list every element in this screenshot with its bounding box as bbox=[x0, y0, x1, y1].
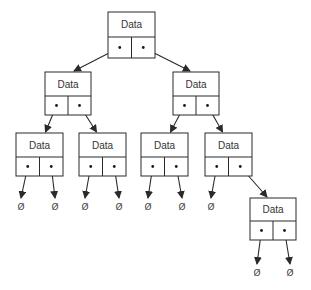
node-data-label: Data bbox=[218, 140, 240, 151]
node-data-label: Data bbox=[92, 140, 114, 151]
null-symbol: Ø bbox=[253, 268, 260, 278]
right-pointer-dot bbox=[206, 104, 209, 107]
right-pointer-dot bbox=[113, 165, 116, 168]
left-pointer-dot bbox=[89, 165, 92, 168]
null-symbol: Ø bbox=[178, 202, 185, 212]
right-pointer-dot bbox=[283, 229, 286, 232]
right-pointer-dot bbox=[50, 165, 53, 168]
node-data-label: Data bbox=[262, 204, 284, 215]
null-symbol: Ø bbox=[207, 202, 214, 212]
tree-node: Data bbox=[108, 12, 155, 58]
tree-node: Data bbox=[79, 133, 126, 176]
tree-node: Data bbox=[250, 198, 296, 240]
null-symbol: Ø bbox=[17, 202, 24, 212]
left-pointer-dot bbox=[215, 165, 218, 168]
left-pointer-dot bbox=[183, 104, 186, 107]
left-pointer-dot bbox=[118, 46, 121, 49]
left-pointer-dot bbox=[260, 229, 263, 232]
null-symbol: Ø bbox=[115, 202, 122, 212]
node-data-label: Data bbox=[29, 140, 51, 151]
null-symbol: Ø bbox=[81, 202, 88, 212]
tree-node: Data bbox=[45, 72, 91, 115]
right-pointer-dot bbox=[142, 46, 145, 49]
null-symbol: Ø bbox=[51, 202, 58, 212]
tree-node: Data bbox=[141, 133, 188, 176]
tree-node: Data bbox=[16, 133, 63, 176]
node-data-label: Data bbox=[154, 140, 176, 151]
node-data-label: Data bbox=[185, 79, 207, 90]
binary-tree-diagram: DataDataDataDataDataDataDataData ØØØØØØØ… bbox=[0, 0, 311, 290]
right-pointer-dot bbox=[239, 165, 242, 168]
right-pointer-dot bbox=[78, 104, 81, 107]
right-pointer-dot bbox=[175, 165, 178, 168]
node-data-label: Data bbox=[57, 79, 79, 90]
left-pointer-dot bbox=[55, 104, 58, 107]
null-symbol: Ø bbox=[144, 202, 151, 212]
null-symbol: Ø bbox=[286, 268, 293, 278]
node-data-label: Data bbox=[121, 19, 143, 30]
tree-node: Data bbox=[205, 133, 252, 176]
tree-node: Data bbox=[173, 72, 219, 115]
left-pointer-dot bbox=[26, 165, 29, 168]
left-pointer-dot bbox=[151, 165, 154, 168]
